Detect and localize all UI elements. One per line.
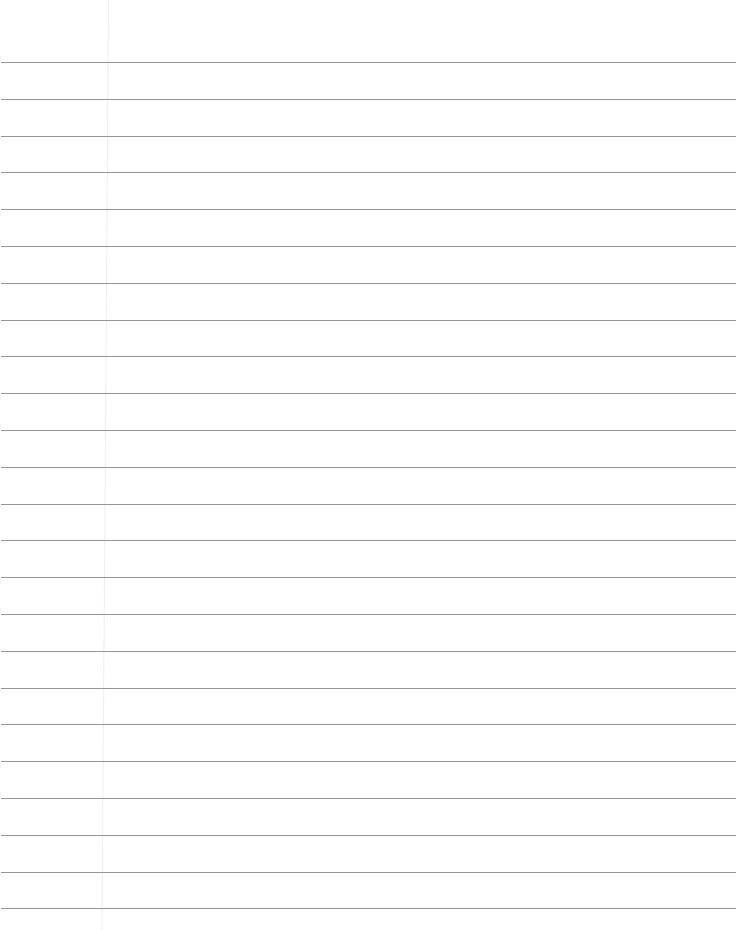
lined-paper-sheet <box>0 0 738 930</box>
ruled-line <box>1 467 736 468</box>
ruled-line <box>1 246 736 247</box>
ruled-line <box>1 393 736 394</box>
ruled-line <box>1 504 736 505</box>
margin-line <box>102 0 109 930</box>
ruled-line <box>1 798 736 799</box>
ruled-line <box>1 430 736 431</box>
ruled-line <box>1 320 736 321</box>
ruled-line <box>1 724 736 725</box>
ruled-line <box>1 614 736 615</box>
ruled-line <box>1 62 736 63</box>
ruled-line <box>1 172 736 173</box>
ruled-line <box>1 688 736 689</box>
ruled-line <box>1 136 736 137</box>
ruled-line <box>1 540 736 541</box>
ruled-line <box>1 835 736 836</box>
ruled-line <box>1 651 736 652</box>
ruled-line <box>1 908 736 909</box>
ruled-line <box>1 577 736 578</box>
ruled-line <box>1 99 736 100</box>
ruled-line <box>1 283 736 284</box>
ruled-line <box>1 356 736 357</box>
ruled-line <box>1 761 736 762</box>
ruled-line <box>1 209 736 210</box>
ruled-line <box>1 872 736 873</box>
